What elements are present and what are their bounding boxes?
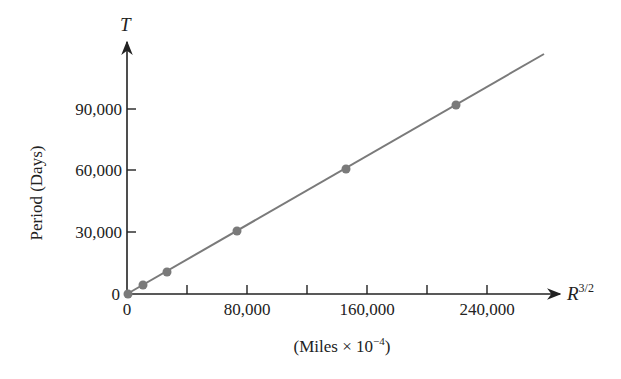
data-point [124, 290, 133, 299]
data-point [233, 227, 242, 236]
y-ticks [127, 109, 136, 232]
data-point [452, 101, 461, 110]
y-axis-title: Period (Days) [27, 146, 46, 241]
y-tick-label-60000: 60,000 [75, 161, 122, 180]
x-tick-label-80000: 80,000 [224, 300, 271, 319]
data-point [163, 268, 172, 277]
y-tick-label-0: 0 [112, 285, 121, 304]
y-tick-label-90000: 90,000 [75, 100, 122, 119]
data-point [139, 281, 148, 290]
y-tick-label-30000: 30,000 [75, 223, 122, 242]
x-tick-label-240000: 240,000 [459, 300, 514, 319]
chart: 90,000 60,000 30,000 0 0 80,000 160,000 … [0, 0, 621, 379]
y-variable-label: T [120, 14, 132, 35]
x-variable-label: R3/2 [566, 281, 594, 304]
fit-line [127, 54, 544, 294]
x-axis-title: (Miles × 10−4) [294, 335, 391, 356]
data-point [342, 165, 351, 174]
x-tick-label-0: 0 [123, 300, 132, 319]
x-tick-label-160000: 160,000 [339, 300, 394, 319]
x-ticks [187, 285, 487, 294]
